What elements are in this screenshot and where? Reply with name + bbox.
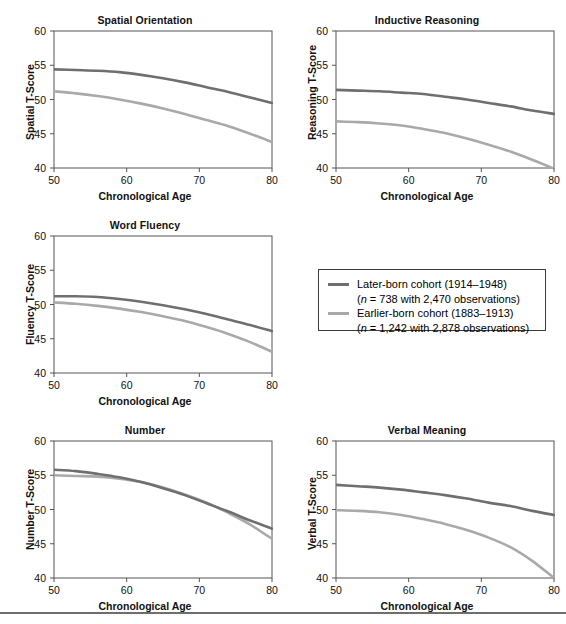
- plot-area: [14, 14, 276, 194]
- cognitive-abilities-figure: Spatial OrientationSpatial T-ScoreChrono…: [0, 0, 566, 624]
- legend-label-line2: (n = 738 with 2,470 observations): [357, 292, 520, 307]
- series-line: [336, 510, 554, 578]
- series-line: [54, 302, 272, 351]
- series-line: [54, 475, 272, 539]
- plot-area: [296, 424, 558, 604]
- panel-verbal-meaning: Verbal MeaningVerbal T-ScoreChronologica…: [296, 424, 558, 614]
- panel-inductive-reasoning: Inductive ReasoningReasoning T-ScoreChro…: [296, 14, 558, 204]
- panel-word-fluency: Word FluencyFluency T-ScoreChronological…: [14, 219, 276, 409]
- legend-label-line1: Earlier-born cohort (1883–1913): [357, 306, 529, 321]
- bottom-divider: [0, 612, 566, 614]
- legend-item-later: Later-born cohort (1914–1948)(n = 738 wi…: [328, 277, 520, 306]
- plot-area: [14, 424, 276, 604]
- legend-swatch-later: [328, 283, 349, 286]
- series-line: [336, 121, 554, 168]
- plot-area: [296, 14, 558, 194]
- plot-frame: [54, 31, 272, 168]
- series-line: [336, 90, 554, 114]
- legend-label-line2: (n = 1,242 with 2,878 observations): [357, 321, 529, 336]
- legend-swatch-earlier: [328, 312, 349, 315]
- series-line: [54, 91, 272, 142]
- panel-number: NumberNumber T-ScoreChronological Age404…: [14, 424, 276, 614]
- plot-area: [14, 219, 276, 399]
- legend-label-earlier: Earlier-born cohort (1883–1913)(n = 1,24…: [357, 306, 529, 335]
- plot-frame: [54, 441, 272, 578]
- series-line: [54, 69, 272, 103]
- legend-item-earlier: Earlier-born cohort (1883–1913)(n = 1,24…: [328, 306, 529, 335]
- panel-spatial-orientation: Spatial OrientationSpatial T-ScoreChrono…: [14, 14, 276, 204]
- series-line: [54, 296, 272, 331]
- legend: Later-born cohort (1914–1948)(n = 738 wi…: [318, 269, 546, 331]
- legend-label-later: Later-born cohort (1914–1948)(n = 738 wi…: [357, 277, 520, 306]
- plot-frame: [336, 31, 554, 168]
- legend-label-line1: Later-born cohort (1914–1948): [357, 277, 520, 292]
